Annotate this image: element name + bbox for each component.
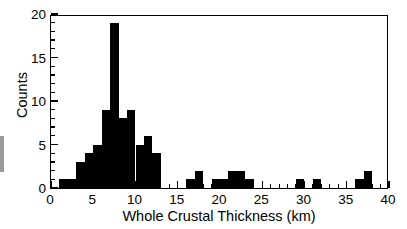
y-minor-tick <box>51 161 55 162</box>
histogram-bar <box>127 110 135 188</box>
x-minor-tick <box>338 184 339 188</box>
x-minor-tick <box>253 184 254 188</box>
x-tick-label: 20 <box>199 192 239 207</box>
x-minor-tick <box>194 184 195 188</box>
histogram-bar <box>136 145 144 189</box>
histogram-bar <box>110 23 118 188</box>
x-major-tick <box>177 181 178 188</box>
y-minor-tick <box>51 135 55 136</box>
y-major-tick <box>51 57 58 58</box>
x-minor-tick <box>355 184 356 188</box>
x-tick-label: 15 <box>157 192 197 207</box>
y-minor-tick <box>51 31 55 32</box>
y-minor-tick <box>51 83 55 84</box>
x-major-tick <box>388 181 389 188</box>
x-minor-tick <box>169 184 170 188</box>
y-tick-label: 0 <box>6 181 46 196</box>
x-minor-tick <box>59 184 60 188</box>
x-major-tick <box>93 181 94 188</box>
y-minor-tick <box>51 170 55 171</box>
y-minor-tick <box>51 39 55 40</box>
y-minor-tick <box>51 109 55 110</box>
y-minor-tick <box>51 48 55 49</box>
x-minor-tick <box>236 184 237 188</box>
x-minor-tick <box>321 184 322 188</box>
x-minor-tick <box>312 184 313 188</box>
y-major-tick <box>51 100 58 101</box>
x-minor-tick <box>380 184 381 188</box>
histogram-bar <box>119 118 127 188</box>
x-minor-tick <box>67 184 68 188</box>
x-major-tick <box>304 181 305 188</box>
x-minor-tick <box>270 184 271 188</box>
x-minor-tick <box>76 184 77 188</box>
y-minor-tick <box>51 74 55 75</box>
x-minor-tick <box>143 184 144 188</box>
x-major-tick <box>219 181 220 188</box>
x-minor-tick <box>228 184 229 188</box>
x-minor-tick <box>295 184 296 188</box>
y-minor-tick <box>51 66 55 67</box>
x-minor-tick <box>279 184 280 188</box>
x-minor-tick <box>371 184 372 188</box>
x-major-tick <box>135 181 136 188</box>
x-minor-tick <box>329 184 330 188</box>
x-minor-tick <box>84 184 85 188</box>
y-major-tick <box>51 187 58 188</box>
histogram-bars <box>51 16 387 188</box>
x-tick-label: 25 <box>241 192 281 207</box>
histogram-bar <box>102 110 110 188</box>
x-minor-tick <box>245 184 246 188</box>
x-minor-tick <box>363 184 364 188</box>
y-minor-tick <box>51 126 55 127</box>
x-minor-tick <box>160 184 161 188</box>
x-tick-label: 10 <box>115 192 155 207</box>
y-major-tick <box>51 144 58 145</box>
x-tick-label: 35 <box>326 192 366 207</box>
x-minor-tick <box>126 184 127 188</box>
x-minor-tick <box>202 184 203 188</box>
y-minor-tick <box>51 118 55 119</box>
y-tick-label: 20 <box>6 7 46 22</box>
y-axis-title: Counts <box>14 35 30 155</box>
histogram-bar <box>93 145 101 189</box>
x-minor-tick <box>110 184 111 188</box>
x-minor-tick <box>118 184 119 188</box>
y-minor-tick <box>51 179 55 180</box>
plot-area <box>50 15 388 189</box>
histogram-bar <box>152 153 160 188</box>
x-minor-tick <box>287 184 288 188</box>
y-minor-tick <box>51 153 55 154</box>
x-minor-tick <box>211 184 212 188</box>
y-minor-tick <box>51 22 55 23</box>
x-tick-label: 5 <box>72 192 112 207</box>
histogram-bar <box>144 136 152 188</box>
scan-edge-artifact <box>0 136 4 172</box>
x-tick-label: 30 <box>284 192 324 207</box>
y-major-tick <box>51 13 58 14</box>
x-minor-tick <box>101 184 102 188</box>
x-major-tick <box>346 181 347 188</box>
x-major-tick <box>262 181 263 188</box>
histogram-figure: 0510152025303540 05101520 Whole Crustal … <box>0 0 407 229</box>
x-tick-label: 40 <box>368 192 407 207</box>
x-axis-title: Whole Crustal Thickness (km) <box>50 208 388 224</box>
y-minor-tick <box>51 92 55 93</box>
x-minor-tick <box>152 184 153 188</box>
x-minor-tick <box>186 184 187 188</box>
